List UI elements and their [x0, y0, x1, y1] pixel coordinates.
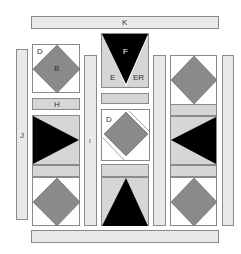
strip-h: H: [32, 98, 80, 110]
strip-center-lower: [101, 164, 149, 177]
block-diamond-bottom-right: [170, 177, 217, 226]
label-d: D: [37, 48, 43, 56]
strip-center-upper: [101, 93, 149, 104]
triangle-left-shape: [171, 117, 218, 166]
triangle-right-shape: [33, 116, 81, 166]
block-diamond-d: D: [101, 109, 150, 161]
strip-i: I: [84, 55, 97, 226]
strip-right-upper: [170, 104, 217, 116]
strip-bottom: [31, 230, 219, 243]
label-e: E: [110, 74, 115, 82]
strip-far-right: [222, 55, 234, 226]
block-triangle-up: [101, 177, 149, 226]
label-b: B: [54, 65, 59, 73]
strip-right-lower: [170, 165, 217, 177]
label-d2: D: [106, 116, 112, 124]
strip-right-sash: [153, 55, 166, 226]
label-er: ER: [133, 74, 144, 82]
strip-left-lower: [32, 165, 80, 177]
block-triangle-left: [170, 116, 217, 165]
block-diamond-bottom-left: [32, 177, 80, 226]
block-diamond-top-right: [170, 55, 217, 105]
label-k: K: [122, 19, 127, 27]
strip-k: K: [31, 16, 219, 29]
strip-j: J: [16, 49, 28, 220]
diamond-shape: [171, 178, 218, 227]
label-f: F: [123, 48, 128, 56]
label-i: I: [89, 138, 91, 144]
block-diamond-b: D B: [32, 44, 80, 93]
block-triangle-f: F E ER: [101, 33, 149, 88]
diamond-shape: [171, 56, 218, 106]
triangle-up-shape: [102, 178, 150, 227]
diamond-shape: [33, 178, 81, 227]
label-j: J: [20, 132, 24, 140]
block-triangle-right: [32, 115, 80, 165]
label-h: H: [54, 101, 60, 109]
